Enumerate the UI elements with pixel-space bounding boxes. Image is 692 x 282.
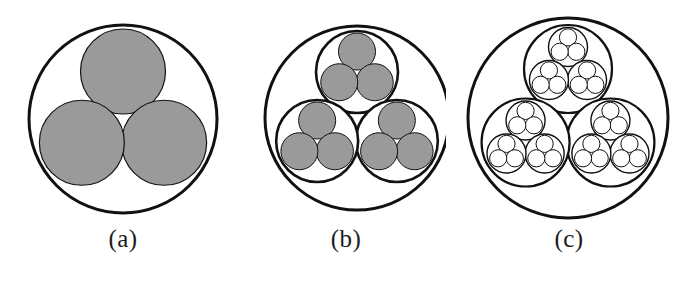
panel-a-level1-circle-2 <box>122 100 207 185</box>
panel-c-level3-circle-3-1-2 <box>525 117 542 134</box>
panel-a-label: (a) <box>0 226 246 251</box>
panel-c-level3-circle-2-1-3 <box>594 117 611 134</box>
panel-c-level3-circle-1-3-2 <box>549 76 566 93</box>
panel-c-level3-circle-3-2-2 <box>544 150 561 167</box>
panel-c-label: (c) <box>446 226 692 251</box>
panel-a-level1-circle-3 <box>39 100 124 185</box>
panel-c-level3-circle-1-3-3 <box>532 76 549 93</box>
panel-c-level3-circle-1-1-3 <box>551 43 568 60</box>
panel-b-level2-circle-3-3 <box>281 133 318 170</box>
panel-b-diagram <box>246 0 446 226</box>
panel-c-level3-circle-2-3-3 <box>574 150 591 167</box>
panel-b: (b) <box>246 0 446 282</box>
panel-c: (c) <box>446 0 692 282</box>
panel-c-level3-circle-2-2-2 <box>629 150 646 167</box>
panel-a: (a) <box>0 0 246 282</box>
panel-c-level3-circle-2-1-2 <box>610 117 627 134</box>
panel-b-level2-circle-2-3 <box>361 133 398 170</box>
panel-c-level3-circle-1-2-3 <box>570 76 587 93</box>
panel-b-level2-circle-3-2 <box>316 133 353 170</box>
panel-c-level3-circle-1-1-2 <box>568 43 585 60</box>
panel-c-level3-circle-3-2-3 <box>528 150 545 167</box>
panel-c-level3-circle-2-2-3 <box>613 150 630 167</box>
panel-a-diagram <box>0 0 246 226</box>
panel-c-diagram <box>446 0 692 226</box>
panel-b-level2-circle-1-2 <box>356 64 393 101</box>
figure-container: (a) (b) (c) <box>0 0 692 282</box>
panel-c-level3-circle-1-2-2 <box>587 76 604 93</box>
panel-c-level3-circle-3-1-3 <box>509 117 526 134</box>
panel-c-level3-circle-3-3-2 <box>506 150 523 167</box>
panel-b-level2-circle-2-2 <box>396 133 433 170</box>
panel-c-level3-circle-2-3-2 <box>591 150 608 167</box>
panel-b-level2-circle-1-3 <box>321 64 358 101</box>
panel-c-level3-circle-3-3-3 <box>490 150 507 167</box>
panel-b-label: (b) <box>246 226 446 251</box>
